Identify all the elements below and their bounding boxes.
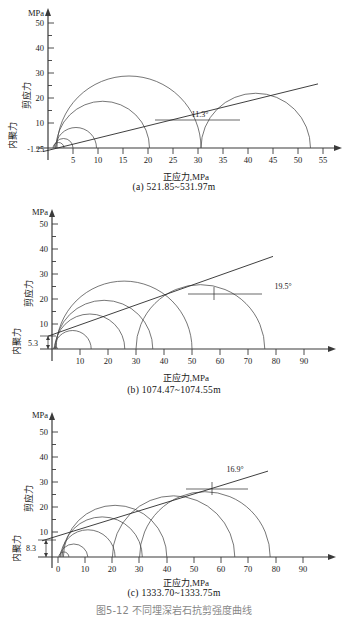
x-tick-label: 50: [190, 564, 199, 574]
x-tick-label: 80: [272, 356, 281, 366]
cohesion-bracket-c: [38, 540, 56, 557]
x-tick-label: 50: [188, 356, 197, 366]
x-axis-arrow-b: [328, 346, 336, 352]
y-ticks-c: [52, 432, 58, 532]
x-ticks-c: [58, 557, 303, 563]
x-tick-label: 30: [194, 155, 203, 165]
x-tick-label: 20: [104, 356, 113, 366]
x-tick-label: 10: [94, 155, 103, 165]
mohr-circles-c: [59, 492, 270, 557]
y-tick-label: 30: [40, 269, 49, 279]
panel-c-plot: 10 20 30 40 50 MPa 0 10 20 30: [0, 410, 348, 590]
y-axis-unit-c: MPa: [32, 410, 48, 420]
y-tick-label: 40: [40, 244, 49, 254]
y-tick-label: 20: [40, 294, 49, 304]
failure-envelope-c: [42, 471, 268, 541]
x-tick-label: 15: [119, 155, 128, 165]
panel-caption-c: (c) 1333.70~1333.75m: [0, 588, 348, 598]
x-axis-title-b: 正应力,MPa: [163, 372, 209, 383]
y-tick-label: 30: [40, 477, 49, 487]
y-axis-title-c: 剪应力: [23, 485, 34, 512]
y-ticks-b: [52, 224, 58, 324]
y-axis-title-a: 剪应力: [21, 82, 32, 109]
y-tick-label: 50: [40, 219, 49, 229]
mohr-circles-a: [53, 76, 311, 148]
y-axis-unit-b: MPa: [32, 207, 48, 217]
x-axis-title-a: 正应力,MPa: [163, 171, 209, 182]
x-tick-label: 5: [71, 155, 75, 165]
panel-caption-a: (a) 521.85~531.97m: [0, 182, 348, 192]
x-tick-label: 35: [219, 155, 228, 165]
y-tick-label: 20: [36, 93, 45, 103]
x-tick-label: 70: [244, 564, 253, 574]
x-tick-label: 80: [272, 564, 281, 574]
panel-caption-b: (b) 1074.47~1074.55m: [0, 385, 348, 395]
y-axis-arrow-c: [49, 412, 55, 420]
y-axis-arrow-a: [45, 8, 51, 16]
y-tick-label: 50: [36, 18, 45, 28]
panel-b-plot: 10 20 30 40 50 MPa 10 20 30 40 50: [0, 205, 348, 387]
x-tick-label: 0: [56, 564, 60, 574]
x-tick-label: 40: [244, 155, 253, 165]
failure-envelope-a: [43, 84, 318, 152]
friction-angle-label-a: 11.3°: [192, 110, 209, 119]
y-tick-label: 20: [40, 502, 49, 512]
cohesion-value-a: -1.25: [27, 145, 44, 154]
x-axis-arrow-a: [334, 145, 342, 151]
y-tick-label: 10: [40, 527, 49, 537]
mohr-circles-b: [53, 281, 264, 349]
y-tick-label: 10: [36, 118, 45, 128]
panel-a: 10 20 30 40 50 MPa 5 10 15: [0, 0, 348, 205]
x-tick-label: 60: [217, 564, 226, 574]
cohesion-bracket-b: [40, 336, 56, 349]
x-axis-arrow-c: [328, 554, 336, 560]
y-axis-arrow-b: [49, 209, 55, 217]
x-tick-label: 60: [216, 356, 225, 366]
y-axis-title-b: 剪应力: [23, 280, 34, 307]
x-tick-label: 55: [319, 155, 328, 165]
x-tick-label: 40: [163, 564, 172, 574]
x-tick-label: 90: [300, 356, 309, 366]
x-tick-label: 20: [108, 564, 117, 574]
x-tick-label: 90: [299, 564, 308, 574]
x-ticks-b: [80, 349, 304, 355]
friction-angle-label-c: 16.9°: [226, 465, 243, 474]
figure-caption: 图5-12 不同埋深岩石抗剪强度曲线: [0, 602, 348, 617]
y-tick-label: 10: [40, 319, 49, 329]
x-tick-label: 45: [269, 155, 278, 165]
x-tick-label: 70: [244, 356, 253, 366]
panel-b: 10 20 30 40 50 MPa 10 20 30 40 50: [0, 205, 348, 410]
x-tick-label: 25: [169, 155, 178, 165]
x-tick-label: 10: [76, 356, 85, 366]
cohesion-label-b: 内聚力: [11, 328, 22, 355]
y-tick-label: 30: [36, 68, 45, 78]
panel-a-plot: 10 20 30 40 50 MPa 5 10 15: [0, 0, 348, 182]
friction-angle-label-b: 19.5°: [274, 282, 291, 291]
x-ticks-a: [73, 148, 323, 154]
x-tick-label: 40: [160, 356, 169, 366]
x-tick-label: 50: [294, 155, 303, 165]
cohesion-value-c: 8.3: [26, 544, 36, 553]
panel-c: 10 20 30 40 50 MPa 0 10 20 30: [0, 410, 348, 615]
x-tick-label: 30: [135, 564, 144, 574]
x-tick-label: 20: [144, 155, 153, 165]
cohesion-value-b: 5.3: [28, 339, 38, 348]
y-axis-unit-a: MPa: [28, 8, 44, 18]
y-tick-label: 40: [36, 43, 45, 53]
x-axis-title-c: 正应力,MPa: [163, 577, 209, 588]
x-tick-label: 30: [132, 356, 141, 366]
x-tick-label: 10: [81, 564, 90, 574]
y-tick-label: 40: [40, 452, 49, 462]
cohesion-label-a: 内聚力: [7, 122, 18, 149]
cohesion-label-c: 内聚力: [11, 535, 22, 562]
y-ticks-a: [48, 23, 54, 123]
y-tick-label: 50: [40, 427, 49, 437]
